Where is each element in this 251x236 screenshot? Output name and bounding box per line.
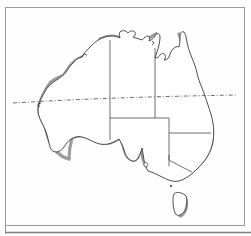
kangaroo-island-outline: [144, 163, 148, 167]
bass-strait-island-marker: [170, 185, 172, 187]
figure-container: Map of Australia Tropic of Capricorn Wes…: [0, 0, 251, 236]
australia-map-figure: [0, 0, 251, 236]
